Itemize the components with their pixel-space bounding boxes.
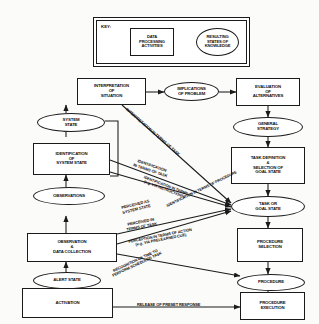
- node-implications-of-problem[interactable]: IMPLICATIONS OF PROBLEM: [164, 82, 219, 101]
- node-task-definition-selection[interactable]: TASK DEFINITION & SELECTION OF GOAL STAT…: [231, 147, 305, 184]
- node-task-or-goal-state[interactable]: TASK OR GOAL STATE: [231, 196, 305, 217]
- node-system-state[interactable]: SYSTEM STATE: [37, 113, 105, 132]
- node-general-strategy[interactable]: GENERAL STRATEGY: [233, 117, 303, 137]
- node-label: ACTIVATION: [55, 301, 79, 306]
- legend-title: KEY:: [101, 24, 111, 29]
- node-label: OBSERVATIONS: [53, 194, 85, 199]
- node-label: PROCEDURE EXECUTION: [259, 301, 285, 311]
- node-label: SYSTEM STATE: [63, 118, 80, 128]
- legend-process-shape: DATA PROCESSING ACTIVITIES: [130, 28, 174, 56]
- node-label: ALERT STATE: [53, 278, 80, 283]
- node-evaluation-of-alternatives[interactable]: EVALUATION OF ALTERNATIVES: [236, 78, 300, 106]
- node-label: IMPLICATIONS OF PROBLEM: [177, 87, 206, 97]
- diagram-canvas: KEY: DATA PROCESSING ACTIVITIES RESULTIN…: [0, 0, 319, 324]
- node-label: EVALUATION OF ALTERNATIVES: [253, 85, 284, 99]
- legend-process-label: DATA PROCESSING ACTIVITIES: [139, 35, 165, 49]
- node-observation-data-collection[interactable]: OBSERVATION & DATA COLLECTION: [27, 233, 117, 262]
- legend-state-label: RESULTING STATES OF KNOWLEDGE: [205, 35, 231, 49]
- node-observations[interactable]: OBSERVATIONS: [33, 187, 105, 205]
- node-activation[interactable]: ACTIVATION: [22, 288, 113, 318]
- node-label: GENERAL STRATEGY: [257, 122, 279, 132]
- node-label: INTERPRETATION OF SITUATION: [94, 84, 129, 98]
- node-label: PROCEDURE SELECTION: [257, 240, 283, 250]
- node-procedure-execution[interactable]: PROCEDURE EXECUTION: [240, 292, 305, 320]
- node-label: PROCEDURE: [258, 280, 284, 285]
- node-procedure-selection[interactable]: PROCEDURE SELECTION: [237, 228, 303, 262]
- node-label: TASK OR GOAL STATE: [255, 202, 280, 212]
- node-label: IDENTIFICATION OF SYSTEM STATE: [56, 152, 88, 166]
- edge-label-release-of-preset-response: RELEASE OF PRESET RESPONSE: [137, 303, 200, 308]
- node-alert-state[interactable]: ALERT STATE: [33, 272, 101, 289]
- node-procedure[interactable]: PROCEDURE: [237, 274, 305, 291]
- node-label: TASK DEFINITION & SELECTION OF GOAL STAT…: [251, 156, 286, 175]
- node-label: OBSERVATION & DATA COLLECTION: [53, 240, 91, 254]
- node-interpretation-of-situation[interactable]: INTERPRETATION OF SITUATION: [77, 78, 146, 105]
- node-identification-of-system-state[interactable]: IDENTIFICATION OF SYSTEM STATE: [33, 143, 110, 175]
- legend-state-shape: RESULTING STATES OF KNOWLEDGE: [196, 28, 239, 56]
